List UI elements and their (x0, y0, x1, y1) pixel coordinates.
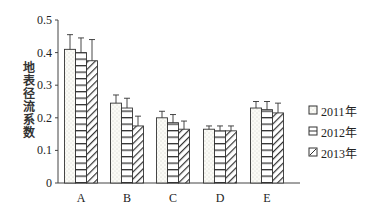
bar (179, 129, 190, 183)
y-axis-label: 地表径流系数 (22, 62, 36, 140)
bar (65, 49, 76, 183)
legend-item-2012: 2012年 (308, 121, 357, 142)
x-tick-label: D (216, 191, 225, 205)
legend-item-2013: 2013年 (308, 142, 357, 163)
y-tick-label: 0.4 (37, 46, 52, 60)
y-tick-label: 0 (46, 176, 52, 190)
legend-swatch-lines-icon (308, 126, 319, 137)
legend-label: 2013年 (321, 144, 357, 162)
x-tick-label: E (263, 191, 270, 205)
bar (215, 131, 226, 183)
legend-swatch-dots-icon (308, 105, 319, 116)
bar (273, 113, 284, 183)
legend-swatch-hatch-icon (308, 147, 319, 158)
bar (111, 103, 122, 183)
bar (204, 129, 215, 183)
legend-label: 2012年 (321, 123, 357, 141)
x-tick-label: B (123, 191, 131, 205)
bar (168, 123, 179, 183)
y-tick-label: 0.1 (37, 143, 52, 157)
y-tick-label: 0.5 (37, 13, 52, 27)
bar (262, 110, 273, 183)
bar (76, 53, 87, 183)
bar (87, 61, 98, 183)
bar (251, 108, 262, 183)
legend-label: 2011年 (321, 102, 357, 120)
bar (122, 108, 133, 183)
bar (133, 126, 144, 183)
y-tick-label: 0.3 (37, 78, 52, 92)
bar (157, 118, 168, 183)
legend: 2011年 2012年 2013年 (308, 100, 357, 163)
y-tick-label: 0.2 (37, 111, 52, 125)
legend-item-2011: 2011年 (308, 100, 357, 121)
bar (226, 131, 237, 183)
x-tick-label: A (77, 191, 86, 205)
x-tick-label: C (169, 191, 177, 205)
